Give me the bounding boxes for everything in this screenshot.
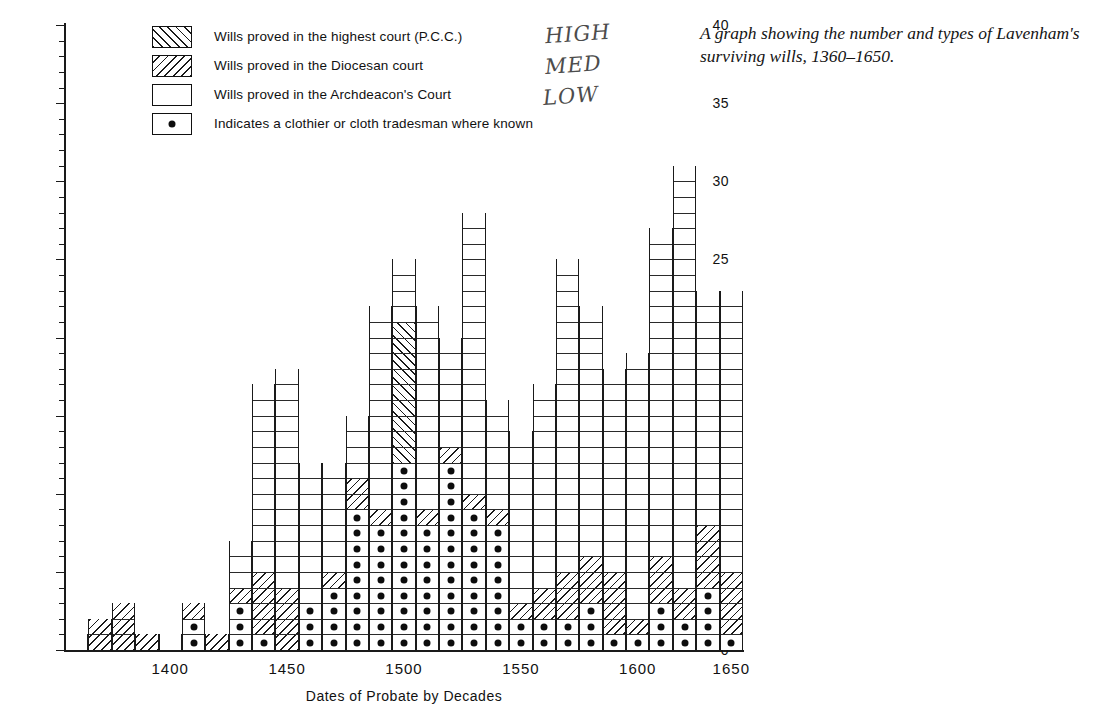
clothier-dot-icon <box>237 639 244 646</box>
bar-cell <box>674 338 695 354</box>
bar-cell <box>650 478 671 494</box>
bar-cell <box>534 556 555 572</box>
bar-1440[interactable] <box>252 384 275 650</box>
legend-item-pcc[interactable]: Wills proved in the highest court (P.C.C… <box>152 22 552 51</box>
bar-cell <box>534 634 555 650</box>
bar-cell <box>650 306 671 322</box>
bar-cell <box>276 447 297 463</box>
bar-cell <box>323 556 344 572</box>
bar-1630[interactable] <box>696 291 719 650</box>
bar-cell <box>253 619 274 635</box>
bar-cell <box>276 572 297 588</box>
bar-1610[interactable] <box>649 228 672 650</box>
bar-cell <box>627 572 648 588</box>
bar-cell <box>323 572 344 588</box>
legend-item-dio[interactable]: Wills proved in the Diocesan court <box>152 51 552 80</box>
bar-cell <box>557 556 578 572</box>
clothier-dot-icon <box>400 624 407 631</box>
bar-1450[interactable] <box>275 369 298 650</box>
bar-cell <box>347 603 368 619</box>
bar-cell <box>650 525 671 541</box>
bar-1390[interactable] <box>135 634 158 650</box>
bar-1500[interactable] <box>392 259 415 650</box>
bar-1620[interactable] <box>673 166 696 650</box>
bar-cell <box>347 619 368 635</box>
bar-cell <box>697 306 718 322</box>
bar-cell <box>370 556 391 572</box>
bar-cell <box>604 369 625 385</box>
clothier-dot-icon <box>471 545 478 552</box>
bar-cell <box>440 478 461 494</box>
bar-1530[interactable] <box>462 213 485 651</box>
bar-cell <box>463 384 484 400</box>
x-tick-label-1500: 1500 <box>385 660 422 677</box>
bar-1400[interactable] <box>159 634 182 650</box>
bar-cell <box>697 353 718 369</box>
bar-1600[interactable] <box>626 353 649 650</box>
clothier-dot-icon <box>494 624 501 631</box>
bar-cell <box>440 556 461 572</box>
bar-1410[interactable] <box>182 603 205 650</box>
clothier-dot-icon <box>307 639 314 646</box>
bar-1470[interactable] <box>322 463 345 651</box>
bar-1460[interactable] <box>299 463 322 651</box>
bar-cell <box>370 588 391 604</box>
bar-1360[interactable] <box>65 634 88 650</box>
legend-item-arch[interactable]: Wills proved in the Archdeacon's Court <box>152 80 552 109</box>
clothier-dot-icon <box>564 639 571 646</box>
bar-cell <box>253 541 274 557</box>
bar-cell <box>674 369 695 385</box>
clothier-dot-icon <box>377 530 384 537</box>
bar-1580[interactable] <box>579 306 602 650</box>
bar-cell <box>580 447 601 463</box>
clothier-dot-icon <box>400 577 407 584</box>
bar-cell <box>534 509 555 525</box>
bar-1490[interactable] <box>369 306 392 650</box>
bar-1540[interactable] <box>486 400 509 650</box>
clothier-dot-icon <box>447 561 454 568</box>
bar-cell <box>487 509 508 525</box>
bar-cell <box>697 447 718 463</box>
clothier-dot-icon <box>307 624 314 631</box>
clothier-dot-icon <box>330 624 337 631</box>
bar-cell <box>253 463 274 479</box>
legend-item-dot[interactable]: Indicates a clothier or cloth tradesman … <box>152 109 552 138</box>
bar-cell <box>580 353 601 369</box>
bar-1380[interactable] <box>112 603 135 650</box>
bar-1370[interactable] <box>88 619 111 650</box>
bar-1640[interactable] <box>720 291 743 650</box>
bar-cell <box>300 463 321 479</box>
clothier-dot-icon <box>447 499 454 506</box>
clothier-dot-icon <box>400 639 407 646</box>
bar-cell <box>674 213 695 229</box>
bar-1560[interactable] <box>533 384 556 650</box>
bar-cell <box>674 322 695 338</box>
clothier-dot-icon <box>494 577 501 584</box>
bar-cell <box>674 166 695 182</box>
bar-1590[interactable] <box>603 369 626 650</box>
bar-cell <box>323 525 344 541</box>
bar-cell <box>89 619 110 635</box>
bar-1550[interactable] <box>509 431 532 650</box>
clothier-dot-icon <box>424 577 431 584</box>
bar-cell <box>674 541 695 557</box>
bar-1430[interactable] <box>229 541 252 650</box>
bar-cell <box>276 416 297 432</box>
bar-cell <box>674 525 695 541</box>
bar-cell <box>463 306 484 322</box>
bar-1420[interactable] <box>205 634 228 650</box>
bar-1510[interactable] <box>416 306 439 650</box>
bar-cell <box>393 291 414 307</box>
bar-1570[interactable] <box>556 259 579 650</box>
bar-cell <box>393 634 414 650</box>
bar-cell <box>721 338 742 354</box>
bar-cell <box>113 634 134 650</box>
legend-item-label: Indicates a clothier or cloth tradesman … <box>214 116 533 131</box>
bar-cell <box>253 556 274 572</box>
bar-cell <box>721 291 742 307</box>
x-tick-label-1650: 1650 <box>713 660 750 677</box>
bar-cell <box>534 463 555 479</box>
bar-1520[interactable] <box>439 338 462 651</box>
clothier-dot-icon <box>494 592 501 599</box>
bar-1480[interactable] <box>346 416 369 650</box>
